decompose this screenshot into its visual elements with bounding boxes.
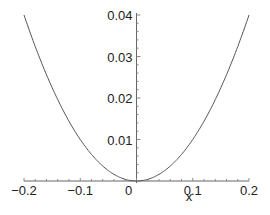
y-tick-label: 0.04 — [107, 8, 132, 23]
x-tick-label: 0 — [125, 183, 132, 198]
x-tick-label: 0.2 — [240, 183, 258, 198]
tick-labels: −0.2−0.100.10.20.010.020.030.04 — [11, 8, 258, 198]
plot-area: −0.2−0.100.10.20.010.020.030.04 x — [0, 0, 270, 215]
axis-ticks — [24, 15, 249, 181]
y-tick-label: 0.02 — [107, 91, 132, 106]
x-axis-label: x — [186, 189, 193, 204]
x-tick-label: −0.2 — [11, 183, 37, 198]
y-tick-label: 0.03 — [107, 50, 132, 65]
x-tick-label: −0.1 — [67, 183, 93, 198]
y-tick-label: 0.01 — [107, 133, 132, 148]
